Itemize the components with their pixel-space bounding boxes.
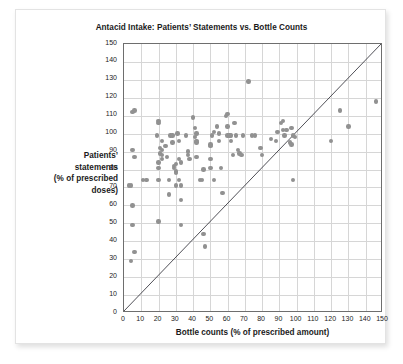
y-tick-label: 150 <box>93 39 117 46</box>
scatter-point <box>170 133 174 137</box>
plot-area <box>123 43 382 312</box>
scatter-point <box>130 203 134 207</box>
y-tick-label: 20 <box>93 272 117 279</box>
scatter-point <box>170 140 174 144</box>
scatter-point <box>130 148 134 152</box>
scatter-point <box>156 121 160 125</box>
y-tick-label: 70 <box>93 182 117 189</box>
scatter-point <box>229 133 233 137</box>
scatter-point <box>289 142 293 146</box>
scatter-point <box>132 250 136 254</box>
scatter-point <box>275 130 279 134</box>
scatter-point <box>212 130 216 134</box>
scatter-point <box>175 131 179 135</box>
scatter-point <box>208 144 212 148</box>
chart-card: Antacid Intake: Patients’ Statements vs.… <box>15 9 386 344</box>
y-tick-label: 60 <box>93 200 117 207</box>
scatter-point <box>156 219 160 223</box>
y-tick-label: 80 <box>93 164 117 171</box>
y-axis-label: Patients’ statements (% of prescribed do… <box>8 150 118 196</box>
scatter-point <box>179 183 183 187</box>
y-tick-label: 50 <box>93 218 117 225</box>
scatter-point <box>132 108 136 112</box>
y-tick-label: 10 <box>93 290 117 297</box>
y-tick-label: 30 <box>93 254 117 261</box>
scatter-point <box>219 166 223 170</box>
scatter-point <box>225 112 229 116</box>
scatter-point <box>217 131 221 135</box>
scatter-point <box>194 131 198 135</box>
scatter-point <box>201 232 205 236</box>
y-tick-label: 130 <box>93 74 117 81</box>
scatter-point <box>179 160 183 164</box>
scatter-point <box>194 140 198 144</box>
y-tick-label: 120 <box>93 92 117 99</box>
scatter-point <box>160 157 164 161</box>
chart-title: Antacid Intake: Patients’ Statements vs.… <box>16 23 387 32</box>
scatter-point <box>132 155 136 159</box>
scatter-point <box>194 155 198 159</box>
reference-line-identity <box>124 44 381 311</box>
scatter-point <box>155 133 159 137</box>
x-axis-label: Bottle counts (% of prescribed amount) <box>123 328 382 337</box>
scatter-point <box>208 166 212 170</box>
scatter-point <box>338 108 342 112</box>
y-tick-label: 140 <box>93 56 117 63</box>
y-tick-label: 110 <box>93 110 117 117</box>
scatter-point <box>374 99 378 103</box>
x-tick-label: 150 <box>370 315 394 322</box>
scatter-point <box>201 167 205 171</box>
scatter-point <box>241 133 245 137</box>
y-tick-label: 0 <box>93 308 117 315</box>
scatter-point <box>246 79 250 83</box>
scatter-point <box>239 153 243 157</box>
y-tick-label: 90 <box>93 146 117 153</box>
scatter-point <box>187 157 191 161</box>
scatter-point <box>284 128 288 132</box>
scatter-point <box>232 121 236 125</box>
scatter-point <box>258 146 262 150</box>
scatter-point <box>220 191 224 195</box>
scatter-point <box>208 157 212 161</box>
y-tick-label: 100 <box>93 128 117 135</box>
scatter-point <box>129 183 133 187</box>
scatter-point <box>184 133 188 137</box>
scatter-point <box>191 115 195 119</box>
scatter-point <box>167 192 171 196</box>
scatter-point <box>225 124 229 128</box>
scatter-point <box>282 133 286 137</box>
y-tick-label: 40 <box>93 236 117 243</box>
scatter-point <box>346 124 350 128</box>
scatter-point <box>156 166 160 170</box>
scatter-point <box>156 160 160 164</box>
scatter-point <box>174 183 178 187</box>
